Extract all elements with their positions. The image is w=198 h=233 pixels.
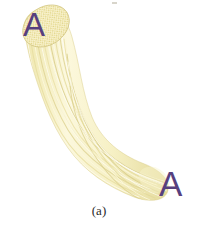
label-a-top: A	[23, 8, 45, 41]
figure-panel-a: A A (a)	[0, 0, 198, 233]
figure-caption: (a)	[0, 203, 198, 219]
label-a-bottom: A	[159, 166, 182, 201]
scan-speck-artifact	[112, 2, 117, 4]
